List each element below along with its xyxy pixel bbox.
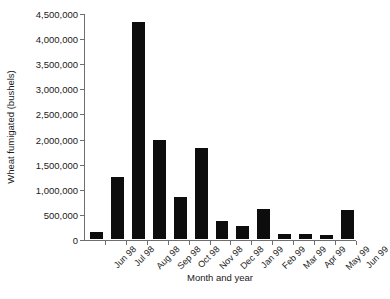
x-axis-tick-label: Jul 98 xyxy=(132,244,156,268)
bar xyxy=(299,234,312,239)
bar xyxy=(195,148,208,239)
x-axis-title: Month and year xyxy=(84,272,356,283)
y-axis-tick-label: 2,000,000 xyxy=(16,134,78,145)
plot-area xyxy=(84,14,356,240)
y-axis-tick-label: 3,000,000 xyxy=(16,84,78,95)
y-axis-tick-label: 1,500,000 xyxy=(16,159,78,170)
y-axis-tick-label: 4,000,000 xyxy=(16,34,78,45)
y-axis-tick-mark xyxy=(80,190,84,191)
y-axis-line xyxy=(84,14,85,241)
bar xyxy=(174,197,187,239)
bar xyxy=(153,140,166,239)
bar xyxy=(111,177,124,239)
y-axis-tick-mark xyxy=(80,89,84,90)
x-axis-tick-label: May 99 xyxy=(343,244,371,272)
y-axis-tick-mark xyxy=(80,215,84,216)
x-axis-tick-label: Feb 99 xyxy=(280,244,307,271)
y-axis-tick-mark xyxy=(80,114,84,115)
bar xyxy=(341,210,354,239)
bar xyxy=(257,209,270,239)
bar xyxy=(320,235,333,239)
y-axis-tick-label: 500,000 xyxy=(16,209,78,220)
x-axis-tick-label: Sep 98 xyxy=(176,244,203,271)
y-axis-tick-label: 1,000,000 xyxy=(16,184,78,195)
y-axis-tick-label-group: 0500,0001,000,0001,500,0002,000,0002,500… xyxy=(18,0,82,299)
y-axis-tick-mark xyxy=(80,64,84,65)
bar xyxy=(278,234,291,239)
y-axis-tick-label: 2,500,000 xyxy=(16,109,78,120)
bar xyxy=(132,22,145,239)
bar xyxy=(236,226,249,239)
y-axis-tick-mark xyxy=(80,39,84,40)
bar xyxy=(216,221,229,239)
y-axis-tick-label: 3,500,000 xyxy=(16,59,78,70)
y-axis-tick-label: 0 xyxy=(16,235,78,246)
y-axis-tick-label: 4,500,000 xyxy=(16,9,78,20)
x-axis-tick-mark xyxy=(356,241,357,245)
bar xyxy=(90,232,103,239)
y-axis-tick-mark xyxy=(80,140,84,141)
y-axis-tick-mark xyxy=(80,14,84,15)
y-axis-tick-mark xyxy=(80,165,84,166)
